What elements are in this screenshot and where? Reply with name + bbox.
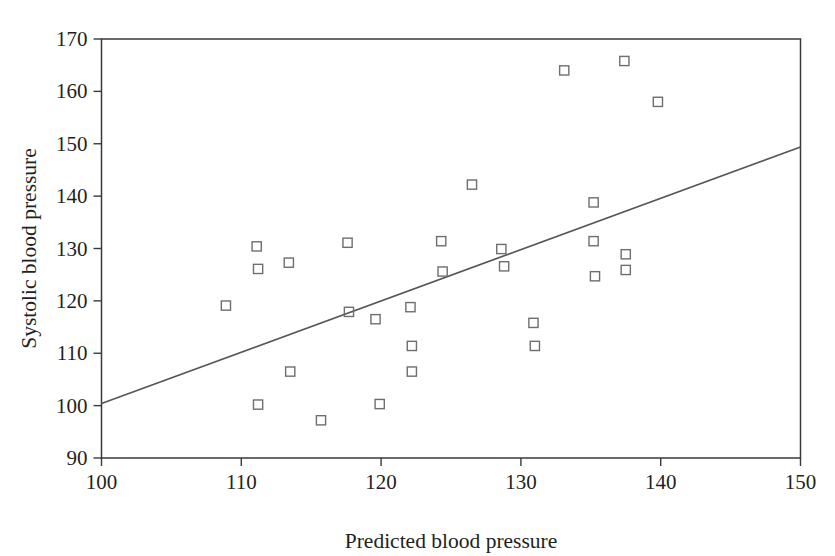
x-tick-label-150: 150 — [785, 470, 817, 494]
regression-line — [102, 147, 801, 404]
data-point-marker — [653, 97, 662, 106]
y-tick-label-160: 160 — [56, 79, 88, 103]
x-tick-label-130: 130 — [505, 470, 537, 494]
y-tick-label-130: 130 — [56, 237, 88, 261]
data-point-marker — [560, 66, 569, 75]
axis-tick-labels: 9010011012013014015016017010011012013014… — [56, 27, 816, 494]
data-point-marker — [500, 262, 509, 271]
y-tick-label-100: 100 — [56, 394, 88, 418]
data-point-marker — [497, 244, 506, 253]
data-point-marker — [620, 56, 629, 65]
axis-ticks — [94, 39, 801, 466]
data-point-marker — [371, 315, 380, 324]
data-point-marker — [589, 237, 598, 246]
data-point-marker — [590, 272, 599, 281]
data-point-marker — [406, 303, 415, 312]
data-point-marker — [343, 238, 352, 247]
y-tick-label-120: 120 — [56, 289, 88, 313]
data-point-marker — [467, 180, 476, 189]
x-tick-label-120: 120 — [365, 470, 397, 494]
data-point-marker — [253, 264, 262, 273]
data-point-marker — [621, 250, 630, 259]
data-point-marker — [253, 400, 262, 409]
data-point-marker — [286, 367, 295, 376]
data-point-marker — [530, 341, 539, 350]
data-point-marker — [316, 416, 325, 425]
x-axis-title: Predicted blood pressure — [345, 529, 558, 553]
data-point-marker — [407, 341, 416, 350]
data-point-marker — [252, 242, 261, 251]
data-point-marker — [375, 399, 384, 408]
y-tick-label-140: 140 — [56, 184, 88, 208]
x-tick-label-110: 110 — [226, 470, 257, 494]
plot-frame — [102, 39, 801, 458]
data-point-marker — [407, 367, 416, 376]
y-tick-label-110: 110 — [57, 341, 88, 365]
y-tick-label-150: 150 — [56, 132, 88, 156]
data-point-marker — [284, 258, 293, 267]
data-point-marker — [221, 301, 230, 310]
data-points — [221, 56, 662, 424]
y-axis-title: Systolic blood pressure — [17, 148, 41, 349]
data-point-marker — [529, 318, 538, 327]
data-point-marker — [437, 237, 446, 246]
x-tick-label-140: 140 — [645, 470, 677, 494]
x-tick-label-100: 100 — [86, 470, 118, 494]
plot-canvas: 9010011012013014015016017010011012013014… — [0, 0, 835, 556]
y-tick-label-170: 170 — [56, 27, 88, 51]
axes — [102, 39, 801, 458]
data-point-marker — [438, 267, 447, 276]
data-point-marker — [621, 265, 630, 274]
regression-line-segment — [102, 147, 801, 404]
scatter-plot-figure: 9010011012013014015016017010011012013014… — [0, 0, 835, 556]
data-point-marker — [589, 198, 598, 207]
y-tick-label-90: 90 — [67, 446, 88, 470]
